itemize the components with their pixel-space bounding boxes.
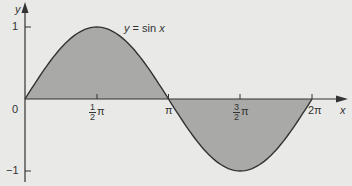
function-label-eq: = sin — [130, 22, 160, 34]
function-label-x: x — [159, 22, 165, 34]
y-tick-label-1: 1 — [12, 20, 18, 32]
x-axis-arrow-icon — [336, 96, 348, 103]
half-pi-denominator: 2 — [89, 113, 96, 122]
y-tick-label-minus-1: −1 — [6, 164, 19, 176]
y-axis-label: y — [15, 3, 21, 15]
x-axis-label: x — [340, 104, 346, 116]
half-pi-symbol: π — [97, 105, 105, 117]
function-label: y = sin x — [124, 22, 165, 34]
sine-plot — [0, 0, 352, 186]
x-tick-label-three-half-pi: 3 2 — [233, 103, 240, 122]
three-half-pi-denominator: 2 — [233, 113, 240, 122]
x-tick-label-two-pi: 2π — [308, 104, 322, 116]
y-tick-label-0: 0 — [12, 103, 18, 115]
three-half-pi-symbol: π — [241, 105, 249, 117]
x-tick-label-pi: π — [165, 104, 173, 116]
y-axis-arrow-icon — [22, 2, 29, 13]
x-tick-label-half-pi: 1 2 — [89, 103, 96, 122]
